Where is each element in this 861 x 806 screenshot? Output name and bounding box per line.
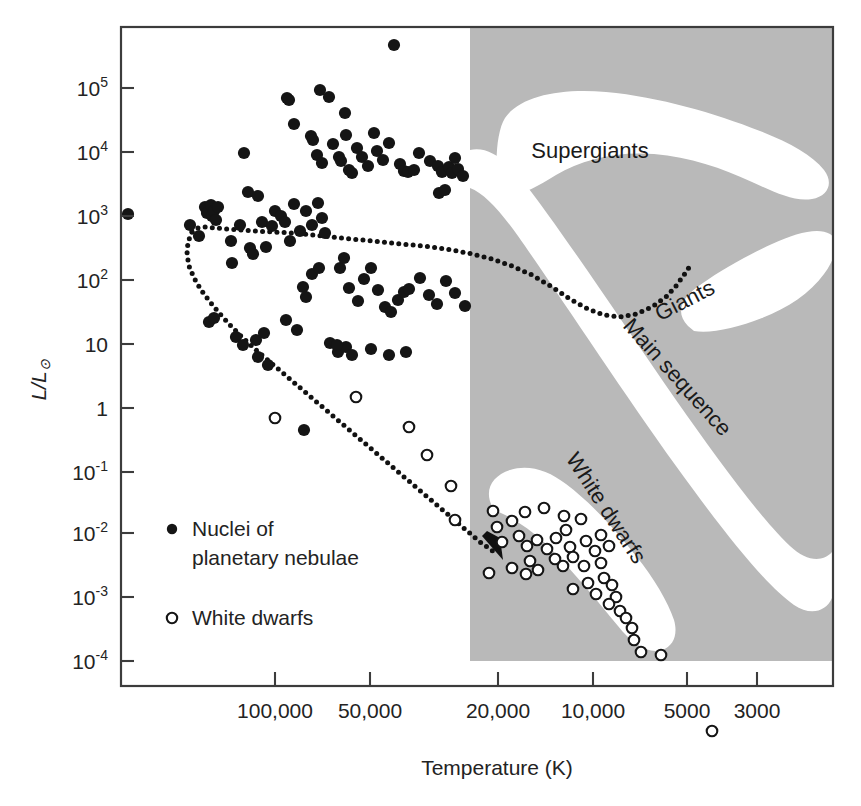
white-dwarf-point bbox=[596, 530, 607, 541]
track-dot bbox=[418, 488, 423, 493]
white-dwarf-point bbox=[351, 392, 362, 403]
planetary-nebula-point bbox=[388, 39, 400, 51]
track-dot bbox=[360, 238, 365, 243]
track-dot bbox=[626, 313, 631, 318]
white-dwarf-point bbox=[450, 515, 461, 526]
white-dwarf-point bbox=[604, 599, 615, 610]
track-dot bbox=[578, 302, 583, 307]
track-dot bbox=[346, 236, 351, 241]
white-dwarf-point bbox=[270, 413, 281, 424]
white-dwarf-point bbox=[542, 544, 553, 555]
track-dot bbox=[522, 269, 527, 274]
track-dot bbox=[460, 250, 465, 255]
track-dot bbox=[195, 226, 200, 231]
legend: Nuclei ofplanetary nebulaeWhite dwarfs bbox=[167, 517, 359, 629]
planetary-nebula-point bbox=[449, 287, 461, 299]
planetary-nebula-point bbox=[383, 137, 395, 149]
white-dwarf-point bbox=[604, 541, 615, 552]
track-dot bbox=[604, 313, 609, 318]
white-dwarf-point bbox=[558, 561, 569, 572]
track-dot bbox=[440, 507, 445, 512]
planetary-nebula-point bbox=[362, 160, 374, 172]
planetary-nebula-point bbox=[340, 129, 352, 141]
track-dot bbox=[200, 290, 205, 295]
y-tick-label: 103 bbox=[77, 202, 108, 228]
track-dot bbox=[210, 225, 215, 230]
white-dwarf-point bbox=[568, 584, 579, 595]
track-dot bbox=[541, 279, 546, 284]
white-dwarf-point bbox=[621, 613, 632, 624]
solar-symbol: ⊙ bbox=[37, 359, 53, 371]
track-dot bbox=[325, 409, 330, 414]
legend-label-nuclei-of-planetary-nebulae-line2: planetary nebulae bbox=[192, 546, 359, 569]
planetary-nebula-point bbox=[440, 275, 452, 287]
track-dot bbox=[489, 256, 494, 261]
track-dot bbox=[597, 311, 602, 316]
track-dot bbox=[678, 278, 683, 283]
track-dot bbox=[292, 381, 297, 386]
track-dot bbox=[468, 251, 473, 256]
white-dwarf-point bbox=[627, 623, 638, 634]
planetary-nebula-point bbox=[258, 327, 270, 339]
y-tick-label: 10-3 bbox=[72, 583, 108, 609]
y-tick-label: 10-4 bbox=[72, 647, 108, 673]
track-dot bbox=[228, 323, 233, 328]
white-dwarf-point bbox=[525, 556, 536, 567]
white-dwarf-point bbox=[497, 537, 508, 548]
track-dot bbox=[682, 272, 687, 277]
white-dwarf-point bbox=[607, 580, 618, 591]
white-dwarf-point bbox=[539, 503, 550, 514]
track-dot bbox=[611, 314, 616, 319]
white-dwarf-point bbox=[561, 525, 572, 536]
white-dwarf-point bbox=[591, 589, 602, 600]
track-dot bbox=[389, 240, 394, 245]
planetary-nebula-point bbox=[385, 306, 397, 318]
track-dot bbox=[396, 241, 401, 246]
white-dwarf-point bbox=[707, 726, 718, 737]
track-dot bbox=[385, 460, 390, 465]
white-dwarf-point bbox=[520, 507, 531, 518]
white-dwarf-point bbox=[521, 569, 532, 580]
white-dwarf-point bbox=[551, 533, 562, 544]
planetary-nebula-point bbox=[377, 154, 389, 166]
white-dwarf-point bbox=[579, 561, 590, 572]
track-dot bbox=[214, 307, 219, 312]
track-dot bbox=[535, 276, 540, 281]
planetary-nebula-point bbox=[352, 295, 364, 307]
track-dot bbox=[686, 266, 691, 271]
track-dot bbox=[403, 242, 408, 247]
track-dot bbox=[559, 291, 564, 296]
track-dot bbox=[374, 451, 379, 456]
track-dot bbox=[187, 236, 192, 241]
x-tick-label: 10,000 bbox=[561, 699, 625, 722]
planetary-nebula-point bbox=[300, 291, 312, 303]
white-dwarf-point bbox=[446, 481, 457, 492]
track-dot bbox=[185, 250, 190, 255]
planetary-nebula-point bbox=[280, 314, 292, 326]
track-dot bbox=[352, 432, 357, 437]
track-dot bbox=[445, 512, 450, 517]
white-dwarf-point bbox=[596, 558, 607, 569]
planetary-nebula-point bbox=[237, 339, 249, 351]
track-dot bbox=[495, 259, 500, 264]
track-dot bbox=[339, 235, 344, 240]
white-dwarf-point bbox=[590, 546, 601, 557]
track-dot bbox=[358, 437, 363, 442]
white-dwarf-point bbox=[636, 647, 647, 658]
planetary-nebula-point bbox=[252, 190, 264, 202]
planetary-nebula-point bbox=[212, 201, 224, 213]
planetary-nebula-point bbox=[368, 127, 380, 139]
track-dot bbox=[330, 413, 335, 418]
white-dwarf-point bbox=[422, 450, 433, 461]
planetary-nebula-point bbox=[439, 184, 451, 196]
planetary-nebula-point bbox=[431, 298, 443, 310]
planetary-nebula-point bbox=[208, 312, 220, 324]
track-dot bbox=[332, 235, 337, 240]
track-dot bbox=[412, 484, 417, 489]
white-dwarf-point bbox=[583, 578, 594, 589]
planetary-nebula-point bbox=[279, 216, 291, 228]
track-dot bbox=[516, 266, 521, 271]
track-dot bbox=[253, 228, 258, 233]
track-dot bbox=[190, 271, 195, 276]
track-dot bbox=[289, 230, 294, 235]
